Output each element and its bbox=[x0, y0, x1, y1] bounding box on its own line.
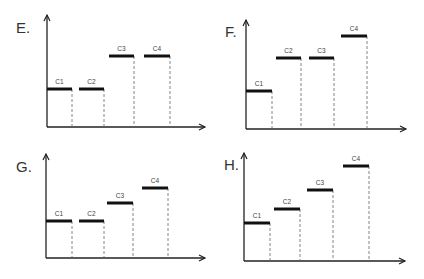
bar-label: C4 bbox=[153, 45, 162, 52]
bar-label: C4 bbox=[151, 177, 160, 184]
bar-label: C2 bbox=[283, 198, 292, 205]
panel-letter: E. bbox=[16, 19, 30, 36]
bar-label: C2 bbox=[87, 78, 96, 85]
step-diagram-figure: E.C1C2C3C4 F.C1C2C3C4 G.C1C2C3C4 H.C1C2C… bbox=[0, 0, 424, 279]
bar-label: C4 bbox=[350, 25, 359, 32]
panel-e: E.C1C2C3C4 bbox=[16, 15, 205, 130]
bar-label: C1 bbox=[55, 210, 64, 217]
panel-letter: H. bbox=[224, 156, 239, 173]
bar-label: C1 bbox=[255, 80, 264, 87]
bar-label: C3 bbox=[116, 192, 125, 199]
panel-h: H.C1C2C3C4 bbox=[224, 153, 405, 264]
panel-f: F.C1C2C3C4 bbox=[225, 20, 406, 132]
bar-label: C3 bbox=[316, 179, 325, 186]
panel-letter: G. bbox=[16, 158, 32, 175]
panel-g: G.C1C2C3C4 bbox=[16, 154, 205, 261]
panel-letter: F. bbox=[225, 23, 237, 40]
bar-label: C4 bbox=[352, 155, 361, 162]
bar-label: C3 bbox=[317, 47, 326, 54]
bar-label: C1 bbox=[253, 212, 262, 219]
bar-label: C1 bbox=[55, 78, 64, 85]
bar-label: C2 bbox=[284, 47, 293, 54]
bar-label: C3 bbox=[117, 45, 126, 52]
bar-label: C2 bbox=[87, 210, 96, 217]
